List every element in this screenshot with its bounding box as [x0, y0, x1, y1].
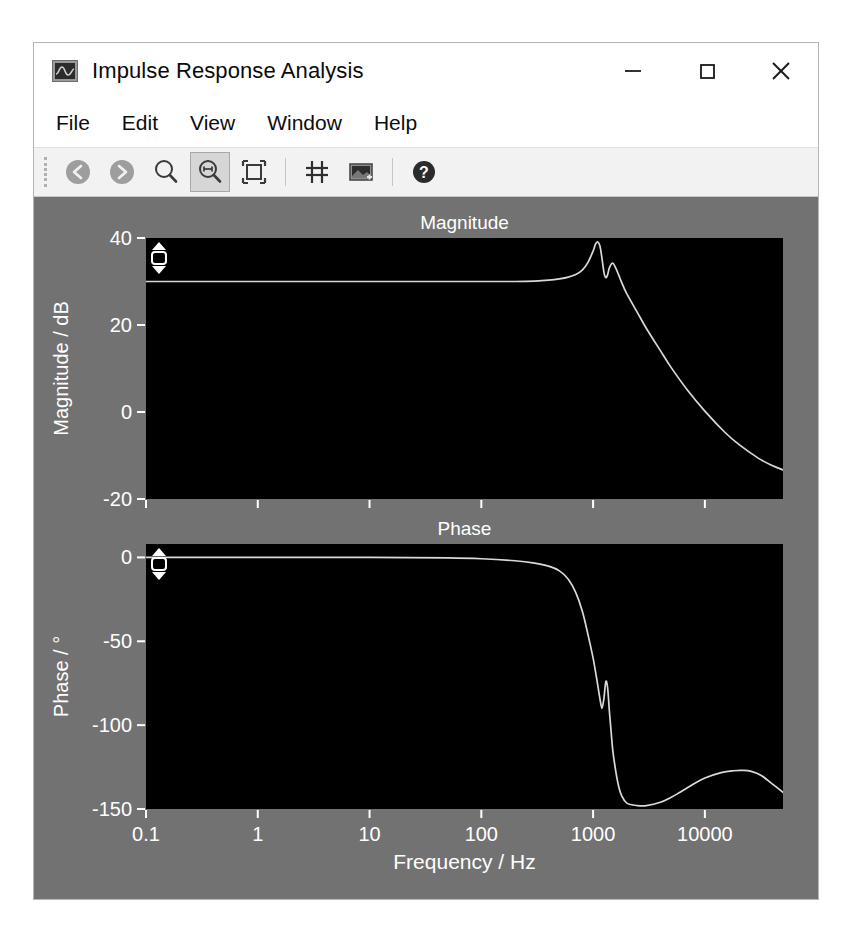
y-tick-label: 0	[121, 401, 132, 423]
menu-item-edit[interactable]: Edit	[122, 111, 158, 135]
panel-title: Phase	[438, 518, 492, 539]
y-tick-label: 40	[110, 227, 132, 249]
x-tick-label: 0.1	[132, 823, 160, 845]
close-icon	[768, 58, 794, 84]
zoom-icon	[151, 157, 181, 187]
axes-background	[146, 238, 783, 499]
bode-plot-svg[interactable]: Magnitude40200-20Magnitude / dBPhase0-50…	[34, 197, 818, 899]
y-tick-label: -50	[103, 630, 132, 652]
help-icon: ?	[409, 157, 439, 187]
export-image-icon	[346, 157, 376, 187]
fit-to-window-icon	[239, 157, 269, 187]
toolbar-grip[interactable]	[40, 155, 50, 189]
plot-area[interactable]: Magnitude40200-20Magnitude / dBPhase0-50…	[34, 197, 818, 899]
x-tick-label: 10000	[677, 823, 733, 845]
application-window: Impulse Response Analysis File	[33, 42, 819, 900]
toolbar-separator	[392, 158, 393, 186]
cursor-marker-button[interactable]	[297, 152, 337, 192]
maximize-icon	[695, 59, 719, 83]
forward-button[interactable]	[102, 152, 142, 192]
toolbar-separator	[285, 158, 286, 186]
menu-item-help[interactable]: Help	[374, 111, 417, 135]
close-button[interactable]	[744, 43, 818, 99]
minimize-icon	[621, 59, 645, 83]
y-axis-label: Magnitude / dB	[50, 301, 72, 436]
toolbar: ?	[34, 147, 818, 197]
window-controls	[596, 43, 818, 99]
menu-item-window[interactable]: Window	[267, 111, 342, 135]
maximize-button[interactable]	[670, 43, 744, 99]
panel-title: Magnitude	[420, 212, 509, 233]
cursor-marker-icon	[302, 157, 332, 187]
axes-background	[146, 544, 783, 809]
y-tick-label: 20	[110, 314, 132, 336]
title-bar: Impulse Response Analysis	[34, 43, 818, 99]
y-axis-label: Phase / °	[50, 636, 72, 717]
x-tick-label: 1000	[571, 823, 616, 845]
help-button[interactable]: ?	[404, 152, 444, 192]
zoom-horizontal-button[interactable]	[190, 152, 230, 192]
x-tick-label: 1	[252, 823, 263, 845]
menu-bar: File Edit View Window Help	[34, 99, 818, 147]
export-image-button[interactable]	[341, 152, 381, 192]
back-button[interactable]	[58, 152, 98, 192]
forward-icon	[107, 157, 137, 187]
zoom-horizontal-icon	[195, 157, 225, 187]
waveform-icon	[52, 60, 78, 82]
zoom-button[interactable]	[146, 152, 186, 192]
back-icon	[63, 157, 93, 187]
x-axis-label: Frequency / Hz	[393, 850, 535, 873]
y-tick-label: -100	[92, 714, 132, 736]
menu-item-file[interactable]: File	[56, 111, 90, 135]
svg-text:?: ?	[419, 164, 429, 181]
magnitude-panel[interactable]: Magnitude40200-20Magnitude / dB	[50, 212, 783, 510]
y-tick-label: -150	[92, 798, 132, 820]
x-tick-label: 100	[465, 823, 498, 845]
x-tick-label: 10	[358, 823, 380, 845]
minimize-button[interactable]	[596, 43, 670, 99]
window-title: Impulse Response Analysis	[92, 58, 364, 84]
fit-to-window-button[interactable]	[234, 152, 274, 192]
menu-item-view[interactable]: View	[190, 111, 235, 135]
y-tick-label: 0	[121, 546, 132, 568]
y-tick-label: -20	[103, 488, 132, 510]
